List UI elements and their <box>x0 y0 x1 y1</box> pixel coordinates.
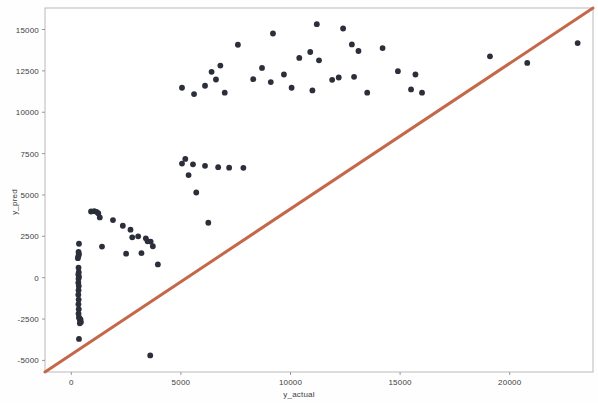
scatter-point <box>395 68 401 74</box>
scatter-point <box>76 241 82 247</box>
scatter-point <box>128 227 134 233</box>
scatter-point <box>75 255 81 261</box>
x-tick-label: 5000 <box>172 378 191 387</box>
scatter-point <box>76 336 82 342</box>
scatter-point <box>307 49 313 55</box>
scatter-point <box>329 77 335 83</box>
scatter-point <box>349 42 355 48</box>
scatter-point <box>139 250 145 256</box>
scatter-point <box>129 234 135 240</box>
scatter-point <box>182 156 188 162</box>
scatter-point <box>281 72 287 78</box>
scatter-point <box>316 57 322 63</box>
scatter-point <box>190 161 196 167</box>
scatter-point <box>120 223 126 229</box>
scatter-point <box>222 90 228 96</box>
scatter-point <box>209 69 215 75</box>
scatter-point <box>380 45 386 51</box>
scatter-point <box>76 301 82 307</box>
y-tick-label: 2500 <box>20 232 39 241</box>
scatter-point <box>205 220 211 226</box>
scatter-point <box>408 87 414 93</box>
scatter-point <box>356 48 362 54</box>
scatter-point <box>310 87 316 93</box>
scatter-point <box>419 90 425 96</box>
x-axis-label: y_actual <box>0 390 598 399</box>
scatter-point <box>191 91 197 97</box>
scatter-point <box>179 85 185 91</box>
x-tick-label: 10000 <box>279 378 302 387</box>
scatter-point <box>289 85 295 91</box>
scatter-point <box>296 55 302 61</box>
scatter-point <box>250 76 256 82</box>
scatter-point <box>97 215 103 221</box>
y-tick-label: 15000 <box>16 25 39 34</box>
scatter-point <box>413 72 419 78</box>
scatter-point <box>150 243 156 249</box>
y-tick-label: -2500 <box>18 315 39 324</box>
scatter-point <box>123 251 129 257</box>
scatter-plot-figure: -5000-25000250050007500100001250015000 0… <box>0 0 598 403</box>
scatter-point <box>336 75 342 81</box>
scatter-point <box>240 165 246 171</box>
scatter-point <box>259 65 265 71</box>
scatter-point <box>155 262 161 268</box>
scatter-point <box>202 83 208 89</box>
y-axis-label: y_pred <box>10 189 19 215</box>
scatter-point <box>193 190 199 196</box>
scatter-point <box>235 42 241 48</box>
y-tick-label: 5000 <box>20 190 39 199</box>
scatter-point <box>340 26 346 32</box>
scatter-point <box>270 31 276 37</box>
y-tick-label: -5000 <box>18 356 39 365</box>
y-tick-label: 10000 <box>16 108 39 117</box>
scatter-point <box>524 60 530 66</box>
x-tick-label: 15000 <box>388 378 411 387</box>
scatter-point <box>575 40 581 46</box>
scatter-point <box>147 353 153 359</box>
scatter-point <box>215 164 221 170</box>
scatter-point <box>487 53 493 59</box>
scatter-point <box>226 165 232 171</box>
y-tick-label: 7500 <box>20 149 39 158</box>
x-tick-label: 0 <box>69 378 74 387</box>
scatter-point <box>213 77 219 83</box>
scatter-point <box>135 233 141 239</box>
plot-canvas <box>0 0 598 403</box>
y-tick-label: 12500 <box>16 66 39 75</box>
x-tick-label: 20000 <box>498 378 521 387</box>
scatter-point <box>99 244 105 250</box>
scatter-point <box>110 217 116 223</box>
scatter-point <box>314 21 320 27</box>
scatter-point <box>268 79 274 85</box>
y-tick-label: 0 <box>34 273 39 282</box>
scatter-point <box>351 74 357 80</box>
scatter-point <box>364 90 370 96</box>
scatter-point <box>217 63 223 69</box>
scatter-point <box>77 320 83 326</box>
scatter-point <box>186 172 192 178</box>
scatter-point <box>202 163 208 169</box>
